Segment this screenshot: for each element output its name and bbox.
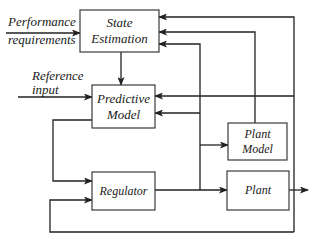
- pm-to-regulator: [53, 120, 92, 181]
- control-to-se: [159, 44, 200, 190]
- svg-text:Plant: Plant: [244, 127, 272, 141]
- svg-text:Model: Model: [241, 142, 273, 156]
- svg-text:State: State: [107, 15, 133, 30]
- svg-text:Plant: Plant: [244, 183, 272, 197]
- svg-text:Predictive: Predictive: [96, 91, 150, 106]
- regulator-block: Regulator: [92, 172, 155, 210]
- plant-model-to-se: [159, 32, 255, 123]
- svg-text:Performance: Performance: [7, 14, 76, 29]
- svg-text:requirements: requirements: [8, 32, 76, 47]
- svg-text:Reference: Reference: [31, 68, 84, 83]
- mpc-block-diagram: Performance requirements Reference input…: [0, 0, 317, 239]
- svg-text:Model: Model: [106, 107, 141, 122]
- predictive-model-block: Predictive Model: [92, 85, 155, 128]
- svg-text:input: input: [32, 82, 59, 97]
- plant-model-block: Plant Model: [228, 123, 287, 160]
- svg-text:Estimation: Estimation: [90, 31, 147, 46]
- state-estimation-block: State Estimation: [80, 10, 159, 52]
- reference-input-label: Reference input: [31, 68, 84, 97]
- svg-text:Regulator: Regulator: [99, 184, 148, 198]
- performance-requirements-label: Performance requirements: [7, 14, 76, 47]
- plant-block: Plant: [227, 171, 289, 210]
